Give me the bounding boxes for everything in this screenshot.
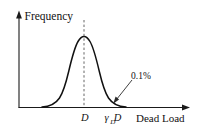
tick-label-mean: D — [80, 112, 89, 123]
tick-label-gamma: γ — [105, 112, 110, 123]
tick-label-factored-base: D — [113, 112, 122, 123]
y-axis-arrowhead-icon — [16, 11, 22, 19]
figure-canvas: Frequency Dead Load D γ D D 0.1% — [0, 0, 197, 137]
y-axis — [16, 11, 22, 108]
y-axis-label: Frequency — [25, 10, 74, 23]
x-axis-arrowhead-icon — [182, 105, 190, 111]
tail-probability-label: 0.1% — [131, 71, 151, 81]
tick-label-factored-dead-load: γ D D — [105, 112, 122, 126]
x-axis-label: Dead Load — [136, 112, 185, 124]
dead-load-distribution-figure: Frequency Dead Load D γ D D 0.1% — [0, 0, 197, 137]
tail-callout-leader — [113, 80, 132, 104]
callout-leader-line — [117, 80, 133, 100]
